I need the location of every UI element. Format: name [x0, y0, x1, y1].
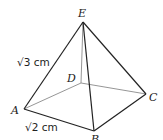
vertex-label-C: C: [149, 91, 158, 104]
edge-DE: [81, 22, 83, 83]
edge-CE: [83, 22, 146, 94]
vertex-label-D: D: [66, 72, 76, 85]
vertex-label-E: E: [77, 7, 86, 20]
edge-BC: [94, 94, 146, 131]
vertex-label-A: A: [10, 104, 19, 117]
edge-DC: [81, 83, 146, 94]
vertex-label-B: B: [90, 133, 99, 140]
pyramid-diagram: E D C A B √3 cm √2 cm: [0, 0, 163, 140]
measurement-AB: √2 cm: [25, 121, 58, 133]
measurement-AE: √3 cm: [17, 56, 50, 68]
edge-BE: [83, 22, 94, 131]
